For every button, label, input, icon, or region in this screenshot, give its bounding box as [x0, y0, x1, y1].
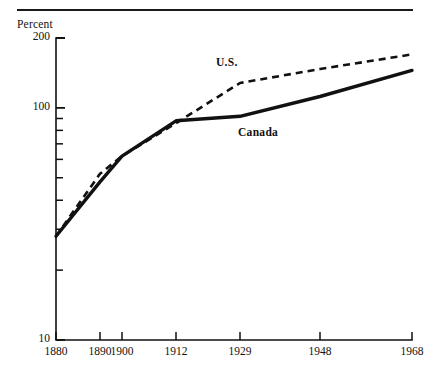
chart-figure: Percent 20010010 18801890190019121929194… [0, 0, 433, 375]
x-tick-label: 1880 [34, 345, 78, 357]
y-tick-label: 10 [10, 332, 50, 344]
x-tick-label: 1929 [218, 345, 262, 357]
x-tick-label: 1948 [298, 345, 342, 357]
axis-lines [56, 38, 412, 340]
x-tick-label: 1968 [390, 345, 433, 357]
x-tick-label: 1900 [100, 345, 144, 357]
x-tick-label: 1912 [154, 345, 198, 357]
series-annotation-us: U.S. [216, 56, 238, 68]
series-line-canada [56, 70, 412, 236]
y-tick-label: 100 [10, 100, 50, 112]
series-annotation-canada: Canada [238, 126, 278, 138]
y-axis-ticks [56, 38, 65, 340]
series-line-us [56, 54, 412, 236]
y-tick-label: 200 [10, 30, 50, 42]
x-axis-ticks [56, 332, 412, 340]
